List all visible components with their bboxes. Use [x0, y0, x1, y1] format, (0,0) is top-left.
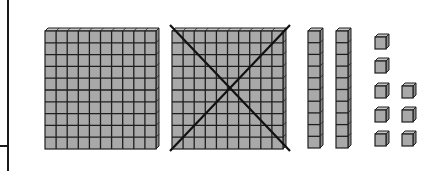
hundred-flat-1	[45, 28, 159, 149]
ten-rod-1	[308, 28, 323, 148]
ten-rod-2	[336, 28, 351, 148]
unit-cube	[375, 107, 389, 122]
unit-cube	[375, 58, 389, 73]
base-ten-blocks-diagram	[0, 0, 438, 171]
unit-cube	[402, 83, 416, 98]
unit-cube	[402, 131, 416, 146]
unit-cube	[375, 34, 389, 49]
unit-cube	[375, 83, 389, 98]
unit-cube	[402, 107, 416, 122]
unit-cube	[375, 131, 389, 146]
